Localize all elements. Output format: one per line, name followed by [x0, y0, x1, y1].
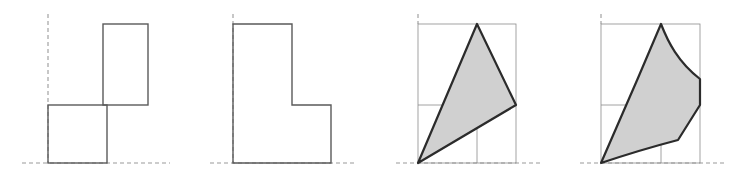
- shaded-curved-region: [601, 24, 700, 163]
- figure-strip: [0, 0, 740, 174]
- panel-shaded-curved-region: [0, 0, 740, 174]
